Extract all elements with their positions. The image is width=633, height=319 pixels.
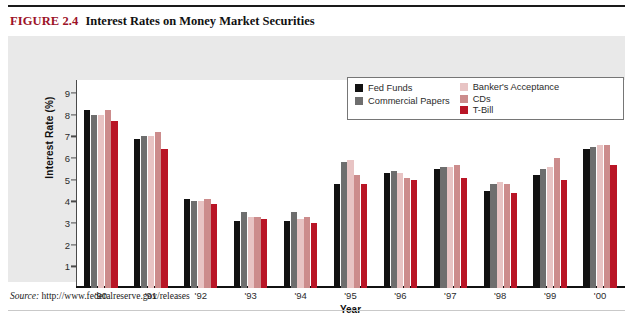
bar [155, 132, 161, 288]
bar [334, 184, 340, 288]
figure-title: Interest Rates on Money Market Securitie… [85, 14, 314, 29]
x-tick-label: '94 [276, 290, 326, 304]
legend-item: Fed Funds [355, 82, 450, 94]
bar [540, 169, 546, 288]
x-tick-label: '99 [525, 290, 575, 304]
bar-group [176, 80, 226, 288]
legend-item: T-Bill [460, 105, 560, 115]
x-tick-label: '98 [475, 290, 525, 304]
bar [554, 158, 560, 288]
bar [484, 191, 490, 289]
legend-item: Banker's Acceptance [460, 82, 560, 92]
bar [583, 149, 589, 288]
bar [134, 139, 140, 289]
y-tick-label: 8 [54, 109, 70, 120]
y-tick-label: 9 [54, 88, 70, 99]
bar [361, 184, 367, 288]
legend-swatch-icon [460, 106, 468, 114]
bar-group [126, 80, 176, 288]
y-tick-label: 1 [54, 261, 70, 272]
bar [454, 165, 460, 289]
bar [404, 178, 410, 289]
bar [504, 184, 510, 288]
legend-swatch-icon [355, 84, 363, 92]
bar-group [276, 80, 326, 288]
bar [184, 199, 190, 288]
bar [84, 110, 90, 288]
bar [98, 115, 104, 288]
bar [411, 180, 417, 288]
bar [311, 223, 317, 288]
bar-group [76, 80, 126, 288]
chart-panel: Interest Rate (%) 123456789 '90'91'92'93… [8, 36, 625, 282]
source-label: Source: [10, 291, 39, 301]
source-note: Source: http://www.federalreserve.gov/re… [10, 291, 190, 301]
x-tick-label: '95 [326, 290, 376, 304]
x-tick-label: '00 [575, 290, 625, 304]
bar [590, 147, 596, 288]
bar [211, 204, 217, 289]
bar [105, 110, 111, 288]
legend-label: Fed Funds [368, 83, 412, 93]
y-tick-label: 5 [54, 174, 70, 185]
bar [384, 173, 390, 288]
legend-label: T-Bill [473, 105, 494, 115]
bar [440, 167, 446, 288]
bar [490, 184, 496, 288]
bar [561, 180, 567, 288]
bar [347, 160, 353, 288]
bar [241, 212, 247, 288]
bar-group [226, 80, 276, 288]
y-tick-label: 7 [54, 131, 70, 142]
bar [391, 171, 397, 288]
bar [161, 149, 167, 288]
bar [447, 167, 453, 288]
legend-swatch-icon [355, 97, 363, 105]
legend-item: Commercial Papers [355, 95, 450, 107]
top-divider [8, 5, 625, 7]
x-tick-label: '96 [375, 290, 425, 304]
y-axis-title: Interest Rate (%) [44, 73, 55, 203]
legend-label: CDs [473, 94, 491, 104]
legend-column-left: Fed FundsCommercial Papers [355, 82, 450, 115]
figure-page: FIGURE 2.4 Interest Rates on Money Marke… [0, 0, 633, 319]
y-tick-label: 3 [54, 218, 70, 229]
bar [533, 175, 539, 288]
legend-swatch-icon [460, 95, 468, 103]
y-tick-label: 4 [54, 196, 70, 207]
bar [434, 169, 440, 288]
bar [547, 167, 553, 288]
bar [610, 165, 616, 289]
source-url: http://www.federalreserve.gov/releases [42, 291, 190, 301]
bar [254, 217, 260, 289]
bar [204, 199, 210, 288]
bottom-divider [8, 310, 625, 311]
bar [261, 219, 267, 288]
legend-label: Commercial Papers [368, 96, 450, 106]
figure-number: FIGURE 2.4 [10, 14, 78, 29]
bar [291, 212, 297, 288]
bar [397, 173, 403, 288]
bar [248, 217, 254, 289]
bar [234, 221, 240, 288]
y-tick-label: 6 [54, 153, 70, 164]
bar [91, 115, 97, 288]
bar [141, 136, 147, 288]
bar [198, 201, 204, 288]
legend-column-right: Banker's AcceptanceCDsT-Bill [460, 82, 560, 115]
legend-item: CDs [460, 94, 560, 104]
bar [354, 175, 360, 288]
bar [297, 219, 303, 288]
bar [148, 136, 154, 288]
bar [511, 193, 517, 288]
bar [604, 145, 610, 288]
bar [304, 217, 310, 289]
chart-legend: Fed FundsCommercial Papers Banker's Acce… [347, 77, 624, 120]
bar [597, 145, 603, 288]
legend-label: Banker's Acceptance [473, 82, 560, 92]
x-tick-label: '93 [226, 290, 276, 304]
figure-title-bar: FIGURE 2.4 Interest Rates on Money Marke… [10, 12, 620, 30]
bar [497, 182, 503, 288]
bar [284, 221, 290, 288]
bar [111, 121, 117, 288]
